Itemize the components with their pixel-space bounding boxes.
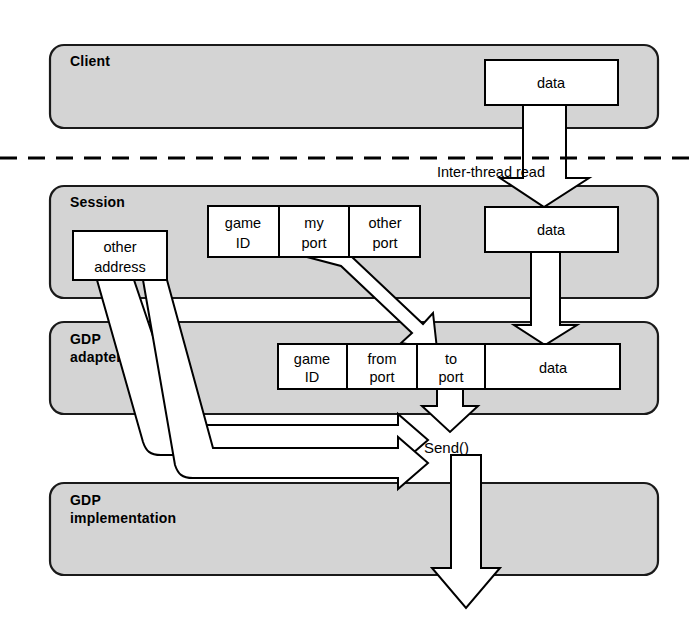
gdp-packet-cell-3-label: data — [539, 360, 568, 376]
gdp-packet-cell-1-line2: port — [370, 369, 395, 385]
gdp-adapter-band-label-line2: adapter — [70, 349, 122, 365]
session-band-label: Session — [70, 194, 125, 210]
other-address-label-line2: address — [94, 259, 146, 275]
session-data-box-label: data — [537, 222, 566, 238]
gdp-packet-cell-1-line1: from — [368, 351, 397, 367]
band-gdp-implementation: GDP implementation — [50, 483, 658, 575]
client-data-box-label: data — [537, 75, 566, 91]
diagram-canvas: Client Session GDP adapter GDP implement… — [0, 0, 689, 626]
client-band-label: Client — [70, 53, 110, 69]
gdp-implementation-band-shape — [50, 483, 658, 575]
session-tuple-cell-2-line1: other — [368, 215, 401, 231]
session-tuple-cell-1-line2: port — [302, 235, 327, 251]
session-tuple-cell-0-line1: game — [225, 215, 261, 231]
other-address-label-line1: other — [103, 239, 136, 255]
other-address-box: other address — [73, 231, 167, 280]
gdp-implementation-band-label-line2: implementation — [70, 510, 176, 526]
gdp-packet: game ID from port to port data — [278, 344, 620, 389]
gdp-packet-cell-0-line2: ID — [305, 369, 320, 385]
gdp-implementation-band-label-line1: GDP — [70, 492, 101, 508]
gdp-packet-cell-0-line1: game — [294, 351, 330, 367]
gdp-packet-cell-2-line2: port — [439, 369, 464, 385]
session-tuple: game ID my port other port — [208, 206, 420, 257]
architecture-diagram: Client Session GDP adapter GDP implement… — [0, 0, 689, 626]
gdp-adapter-band-label-line1: GDP — [70, 331, 101, 347]
session-tuple-cell-1-line1: my — [304, 215, 324, 231]
session-tuple-cell-2-line2: port — [373, 235, 398, 251]
session-data-box: data — [485, 207, 618, 252]
session-tuple-cell-0-line2: ID — [236, 235, 251, 251]
client-data-box: data — [485, 60, 618, 105]
gdp-packet-cell-2-line1: to — [445, 351, 457, 367]
send-call-label: Send() — [424, 439, 469, 456]
inter-thread-read-label: Inter-thread read — [437, 164, 545, 180]
